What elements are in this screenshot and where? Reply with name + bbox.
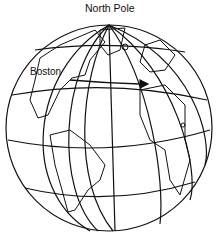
- greenland: [100, 28, 125, 55]
- globe-diagram: [0, 0, 218, 235]
- route-arrow: [70, 80, 148, 88]
- africa: [140, 85, 190, 195]
- north-pole-label: North Pole: [85, 3, 135, 14]
- boston-label: Boston: [30, 67, 61, 77]
- island: [181, 123, 185, 127]
